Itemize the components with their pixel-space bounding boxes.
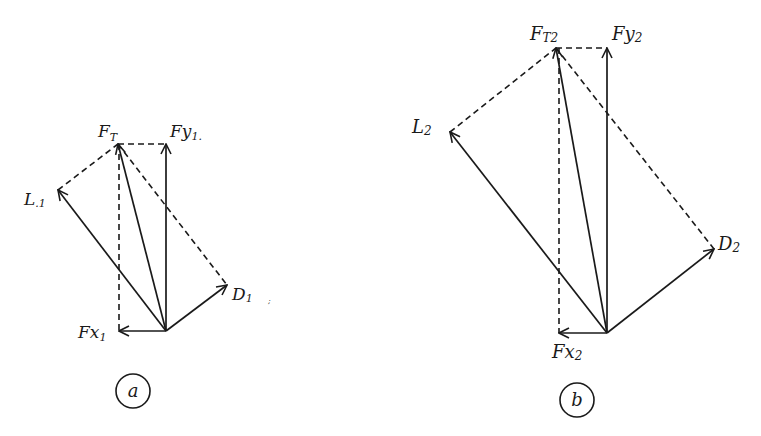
dashed-l-to-ft bbox=[58, 144, 118, 190]
drag-vector-b bbox=[607, 249, 714, 333]
diagram-a: FT Fy1. L.1 D1 ; Fx1 a bbox=[23, 121, 271, 408]
dashed-ft-to-d bbox=[118, 144, 227, 285]
caption-a: a bbox=[116, 374, 150, 408]
lift-vector-a bbox=[58, 190, 166, 331]
total-force-vector-b bbox=[556, 48, 607, 333]
caption-text-b: b bbox=[571, 389, 583, 410]
stray-mark-a: ; bbox=[267, 296, 271, 305]
label-d-b: D2 bbox=[717, 233, 740, 255]
label-fx-b: Fx2 bbox=[551, 341, 582, 363]
force-diagrams: FT Fy1. L.1 D1 ; Fx1 a FT2 Fy2 L2 D2 Fx bbox=[0, 0, 761, 436]
caption-b: b bbox=[560, 383, 594, 417]
dashed-l-to-ft bbox=[450, 48, 556, 132]
caption-text-a: a bbox=[128, 380, 139, 401]
diagram-b: FT2 Fy2 L2 D2 Fx2 b bbox=[411, 23, 740, 417]
label-d-a: D1 bbox=[231, 284, 253, 305]
label-ft-a: FT bbox=[97, 121, 119, 144]
vectors-a bbox=[58, 144, 227, 331]
vectors-b bbox=[450, 48, 714, 333]
label-l-a: L.1 bbox=[23, 189, 46, 210]
label-fy-b: Fy2 bbox=[611, 23, 642, 45]
label-l-b: L2 bbox=[411, 116, 432, 138]
label-ft-b: FT2 bbox=[529, 23, 558, 45]
dashed-ft-to-d bbox=[556, 48, 714, 249]
label-fy-a: Fy1. bbox=[169, 121, 202, 143]
lift-vector-b bbox=[450, 132, 607, 333]
label-fx-a: Fx1 bbox=[77, 322, 106, 344]
drag-vector-a bbox=[166, 285, 227, 331]
total-force-vector-a bbox=[118, 144, 166, 331]
